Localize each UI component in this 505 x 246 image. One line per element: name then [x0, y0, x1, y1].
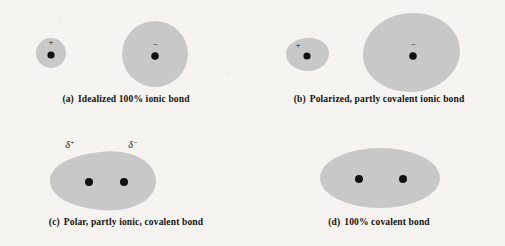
panel-c-caption: (c)Polar, partly ionic, covalent bond: [0, 217, 252, 227]
partial-positive-nucleus: [85, 178, 93, 186]
panel-b-label: (b): [294, 94, 306, 104]
merged-electron-cloud: [50, 151, 156, 210]
panel-c-caption-text: Polar, partly ionic, covalent bond: [64, 217, 203, 227]
anion-nucleus: [409, 52, 417, 60]
panel-b-caption-text: Polarized, partly covalent ionic bond: [310, 94, 465, 104]
delta-plus-symbol: δ+: [65, 139, 75, 150]
panel-d-caption: (d)100% covalent bond: [253, 217, 505, 227]
cation-nucleus: [303, 52, 310, 59]
panel-d-caption-text: 100% covalent bond: [344, 217, 430, 227]
anion-charge-symbol: −: [410, 39, 415, 49]
panel-d-label: (d): [328, 217, 340, 227]
anion-cloud: [363, 13, 460, 92]
panel-a-label: (a): [62, 94, 74, 104]
panel-b-polarized-ionic: + − (b)Polarized, partly covalent ionic …: [253, 0, 505, 123]
panel-c-diagram: δ+ δ−: [0, 123, 252, 223]
anion-charge-symbol: −: [152, 39, 157, 49]
panel-c-polar-covalent: δ+ δ− (c)Polar, partly ionic, covalent b…: [0, 123, 252, 246]
cation-nucleus: [47, 51, 54, 58]
panel-b-diagram: + −: [253, 0, 505, 100]
partial-negative-nucleus: [120, 178, 128, 186]
atom-right-nucleus: [399, 175, 407, 183]
panel-a-caption-text: Idealized 100% ionic bond: [78, 94, 190, 104]
panel-a-idealized-ionic: + − (a)Idealized 100% ionic bond: [0, 0, 252, 123]
delta-minus-symbol: δ−: [128, 139, 138, 150]
panel-d-covalent: (d)100% covalent bond: [253, 123, 505, 246]
panel-b-caption: (b)Polarized, partly covalent ionic bond: [253, 94, 505, 104]
panel-c-label: (c): [49, 217, 60, 227]
bond-types-figure: + − (a)Idealized 100% ionic bond + − (b)…: [0, 0, 505, 246]
panel-d-diagram: [253, 123, 505, 223]
panel-a-caption: (a)Idealized 100% ionic bond: [0, 94, 252, 104]
anion-nucleus: [151, 52, 159, 60]
cation-charge-symbol: +: [295, 40, 300, 50]
cation-charge-symbol: +: [48, 37, 53, 47]
panel-a-diagram: + −: [0, 0, 252, 100]
atom-left-nucleus: [355, 175, 363, 183]
merged-electron-cloud: [320, 148, 440, 208]
